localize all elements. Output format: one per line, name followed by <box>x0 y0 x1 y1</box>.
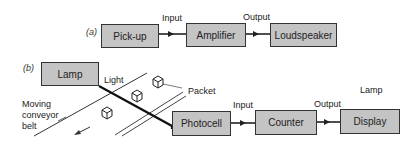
loudspeaker-block: Loudspeaker <box>270 23 337 47</box>
arrow-icon <box>324 119 330 125</box>
part-a-tag: (a) <box>86 27 97 37</box>
light-label: Light <box>104 75 124 85</box>
part-b-tag: (b) <box>23 63 34 73</box>
arrow-icon <box>168 31 174 37</box>
pickup-block: Pick-up <box>101 24 159 48</box>
arrow-icon <box>240 120 246 126</box>
display-block: Display <box>340 109 400 134</box>
amplifier-block: Amplifier <box>186 23 246 47</box>
packet-icon <box>102 107 112 119</box>
packet-label: Packet <box>188 86 216 96</box>
arrow-icon <box>253 31 259 37</box>
packet-icon <box>153 76 163 88</box>
counter-block: Counter <box>255 110 317 135</box>
packet-icon <box>132 90 142 102</box>
photocell-block: Photocell <box>172 111 231 136</box>
output-label-b: Output <box>314 99 341 109</box>
lamp-block: Lamp <box>41 62 99 86</box>
belt-label: Moving conveyor belt <box>22 99 59 132</box>
output-label-a: Output <box>243 12 270 22</box>
input-label-a: Input <box>162 13 182 23</box>
input-label-b: Input <box>233 100 253 110</box>
display-lamp-label: Lamp <box>360 85 383 95</box>
